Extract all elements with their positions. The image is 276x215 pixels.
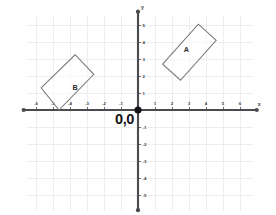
x-tick-label: 6 [239, 101, 242, 106]
x-tick-label: -4 [68, 101, 72, 106]
y-axis-bottom-cap [136, 208, 140, 212]
shape-label-b: B [72, 83, 77, 92]
x-tick-label: 4 [205, 101, 208, 106]
x-tick-label: -3 [85, 101, 89, 106]
x-tick-label: -6 [34, 101, 38, 106]
y-tick-label: -3 [143, 159, 147, 164]
grid-lines [27, 16, 253, 212]
x-tick-label: 5 [222, 101, 225, 106]
y-axis-name-label: y [141, 4, 144, 10]
x-axis-name-label: x [258, 101, 261, 107]
y-tick-label: -5 [143, 193, 147, 198]
y-tick-label: -4 [143, 176, 147, 181]
coordinate-plane-figure: -6-5-4-3-2-112345654321-1-2-3-4-5 AB xy … [0, 0, 276, 215]
coordinate-plane-svg: -6-5-4-3-2-112345654321-1-2-3-4-5 AB xy … [0, 0, 276, 215]
y-tick-label: -2 [143, 142, 147, 147]
shape-label-a: A [184, 45, 189, 54]
origin-dot [134, 106, 141, 113]
x-axis-left-cap [22, 108, 26, 112]
origin-coordinate-label: 0,0 [115, 111, 134, 127]
x-axis-right-cap [255, 108, 259, 112]
plotted-shapes: AB [41, 24, 216, 110]
x-tick-label: 2 [171, 101, 174, 106]
x-tick-label: 1 [154, 101, 157, 106]
x-tick-label: -1 [119, 101, 123, 106]
x-tick-label: 3 [188, 101, 191, 106]
y-axis-top-cap [136, 10, 140, 14]
x-tick-label: -2 [102, 101, 106, 106]
y-tick-label: -1 [143, 125, 147, 130]
